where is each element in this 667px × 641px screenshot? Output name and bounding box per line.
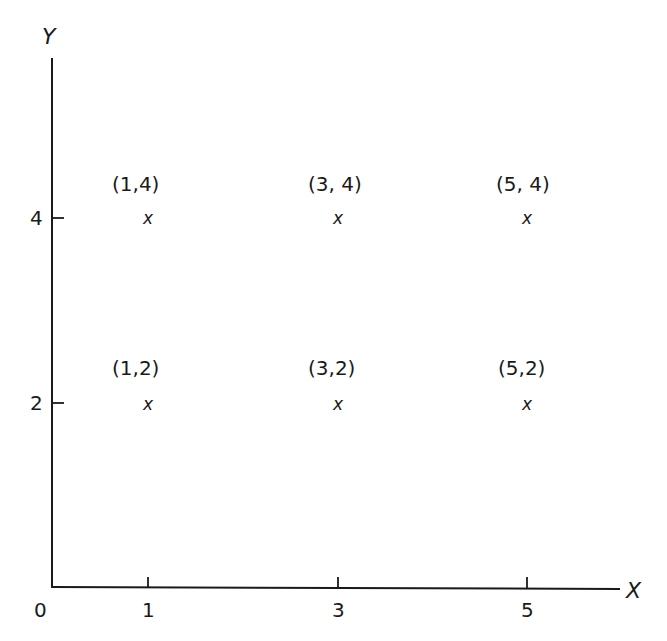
x-tick-label-3: 3 xyxy=(332,598,345,622)
point-marker-3-2: x xyxy=(332,394,344,414)
point-label-5-2: (5,2) xyxy=(498,356,545,380)
point-marker-1-2: x xyxy=(142,394,154,414)
x-tick-label-1: 1 xyxy=(142,598,155,622)
point-label-1-4: (1,4) xyxy=(112,172,159,196)
x-axis-line xyxy=(51,587,620,589)
point-marker-1-4: x xyxy=(142,208,154,228)
point-marker-5-2: x xyxy=(521,394,533,414)
x-axis-label: X xyxy=(625,578,642,603)
point-label-3-2: (3,2) xyxy=(308,356,355,380)
scatter-plot: Y X 0 1 3 5 4 2 (1,4) (3, 4) (5, 4) x x … xyxy=(0,0,667,641)
x-tick-label-5: 5 xyxy=(521,598,534,622)
y-axis-label: Y xyxy=(42,24,57,49)
point-label-1-2: (1,2) xyxy=(112,356,159,380)
point-marker-5-4: x xyxy=(521,208,533,228)
point-label-3-4: (3, 4) xyxy=(308,172,362,196)
y-tick-label-2: 2 xyxy=(30,391,43,415)
y-tick-label-4: 4 xyxy=(30,206,43,230)
origin-label: 0 xyxy=(34,598,47,622)
point-label-5-4: (5, 4) xyxy=(496,172,550,196)
point-marker-3-4: x xyxy=(332,208,344,228)
